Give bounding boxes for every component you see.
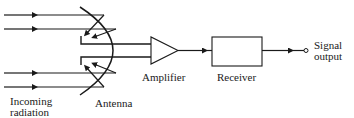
receiver-label: Receiver xyxy=(217,72,256,83)
diagram-canvas xyxy=(0,0,354,118)
incoming-radiation-label: Incoming radiation xyxy=(10,96,52,118)
antenna-dish xyxy=(80,7,113,95)
antenna-feed xyxy=(81,36,151,65)
amplifier-label: Amplifier xyxy=(142,72,185,83)
antenna-label: Antenna xyxy=(95,98,132,109)
incoming-label-line2: radiation xyxy=(10,107,52,118)
signal-output-terminal xyxy=(304,49,308,53)
receiver-box xyxy=(212,37,262,66)
signal-output-label: Signal output xyxy=(314,40,342,62)
output-label-line2: output xyxy=(314,51,342,62)
amplifier-symbol xyxy=(151,37,178,64)
incoming-rays xyxy=(4,15,116,87)
